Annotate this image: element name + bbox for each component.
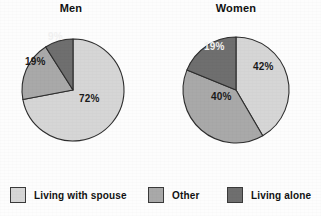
pie-men-label-living-alone: 9% (48, 31, 63, 42)
pie-chart-figure: Men Women 9% 19% 72% 19% 42% 40% (0, 0, 321, 216)
legend-label-living-with-spouse: Living with spouse (34, 190, 127, 201)
pie-men-slices (22, 39, 124, 141)
pie-women-label-living-alone: 19% (204, 41, 225, 52)
legend: Living with spouse Other Living alone (0, 183, 321, 209)
chart-title-men: Men (36, 2, 106, 14)
pie-men-label-living-with-spouse: 72% (79, 93, 100, 104)
legend-swatch-other (148, 187, 164, 203)
legend-label-living-alone: Living alone (251, 190, 311, 201)
legend-item-other: Other (148, 185, 199, 205)
legend-swatch-living-with-spouse (10, 187, 26, 203)
pie-women-label-other: 40% (211, 91, 232, 102)
pie-women-label-living-with-spouse: 42% (253, 61, 274, 72)
pie-men-label-other: 19% (25, 56, 46, 67)
pie-men-svg (16, 32, 128, 146)
legend-swatch-living-alone (227, 187, 243, 203)
pie-women-svg (178, 32, 294, 148)
legend-item-living-alone: Living alone (227, 185, 311, 205)
legend-label-other: Other (172, 190, 199, 201)
pie-women-slices (183, 37, 289, 143)
chart-title-women: Women (198, 2, 274, 14)
pie-chart-women (178, 32, 294, 148)
pie-chart-men (16, 32, 128, 146)
legend-item-living-with-spouse: Living with spouse (10, 185, 127, 205)
